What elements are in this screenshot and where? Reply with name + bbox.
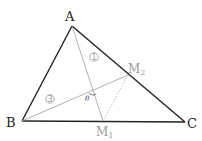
side-ab — [22, 26, 72, 121]
m2-subscript: 2 — [140, 68, 145, 77]
segment-label-1-text: 1 — [91, 53, 96, 62]
side-bc — [22, 121, 185, 122]
angle-theta-label: θ — [85, 95, 90, 103]
triangle-diagram: A B C M1 M2 1 3 θ — [0, 0, 202, 141]
midpoint-label-m1: M1 — [96, 125, 113, 140]
segment-label-3-text: 3 — [47, 95, 52, 104]
vertex-label-b: B — [6, 115, 16, 130]
vertex-label-c: C — [187, 116, 197, 131]
m1-letter: M — [96, 125, 108, 139]
segment-label-1: 1 — [90, 53, 98, 62]
median-a-m1 — [72, 26, 103, 121]
m2-letter: M — [128, 62, 140, 76]
m1-subscript: 1 — [108, 131, 113, 140]
vertex-label-a: A — [64, 9, 75, 24]
median-b-m2 — [22, 75, 128, 121]
segment-label-3: 3 — [46, 95, 54, 104]
midline-m1-m2 — [103, 75, 128, 121]
midpoint-label-m2: M2 — [128, 62, 145, 77]
angle-theta-arc — [89, 93, 96, 95]
